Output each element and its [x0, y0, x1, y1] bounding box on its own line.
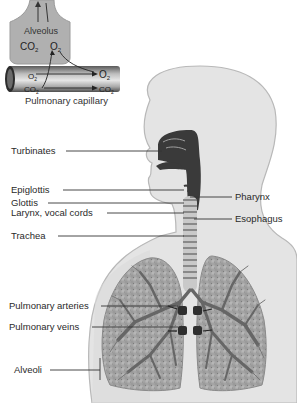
capillary-o2-in: O2 [28, 72, 37, 84]
label-pulmonary-arteries: Pulmonary arteries [9, 300, 89, 311]
gas-formula: CO [24, 85, 36, 94]
label-turbinates: Turbinates [11, 145, 56, 156]
label-alveoli: Alveoli [14, 364, 42, 375]
trachea [183, 196, 197, 292]
capillary-o2-out: O2 [99, 70, 110, 83]
gas-formula: CO [99, 85, 111, 94]
label-pharynx: Pharynx [235, 191, 270, 202]
gas-subscript: 2 [107, 75, 110, 81]
capillary-label: Pulmonary capillary [25, 96, 108, 106]
alveolus-o2: O2 [50, 42, 61, 55]
label-epiglottis: Epiglottis [11, 184, 50, 195]
alveolus-co2: CO2 [20, 42, 38, 55]
gas-subscript: 2 [35, 47, 38, 53]
label-trachea: Trachea [11, 230, 46, 241]
label-larynx: Larynx, vocal cords [11, 207, 93, 218]
gas-formula: CO [20, 41, 35, 52]
gas-subscript: 2 [111, 89, 114, 95]
label-esophagus: Esophagus [235, 213, 283, 224]
alveolus-label: Alveolus [24, 26, 58, 36]
gas-formula: O [99, 69, 107, 80]
gas-formula: O [50, 41, 58, 52]
respiratory-diagram: Alveolus CO2 O2 O2 CO2 O2 CO2 Pulmonary … [0, 0, 297, 403]
label-pulmonary-veins: Pulmonary veins [9, 321, 79, 332]
gas-subscript: 2 [34, 76, 37, 82]
gas-subscript: 2 [58, 47, 61, 53]
